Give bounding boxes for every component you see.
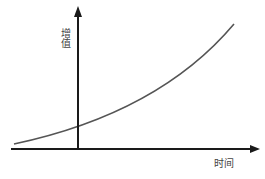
y-axis-label: 增值 bbox=[57, 28, 72, 48]
chart-canvas bbox=[0, 0, 265, 179]
growth-curve bbox=[14, 24, 234, 144]
x-axis-arrow-icon bbox=[250, 145, 260, 153]
x-axis-label: 时间 bbox=[214, 155, 234, 170]
y-axis-arrow-icon bbox=[74, 6, 82, 17]
